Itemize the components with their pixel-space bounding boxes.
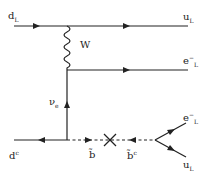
arrow-left-icon [38, 137, 45, 143]
arrow-up-icon [64, 101, 70, 108]
label-u-l-top: uL [183, 12, 193, 24]
label-d-l: dL [8, 11, 18, 23]
arrow-right-icon [85, 137, 92, 143]
arrow-right-icon [123, 67, 130, 73]
arrow-left-icon [129, 137, 136, 143]
label-nu-e: νe [49, 97, 59, 109]
arrow-right-icon [123, 23, 130, 29]
label-u-l-out: uL [183, 160, 193, 172]
label-e-l-mid: e−L [183, 55, 198, 68]
label-b-tilde-c: b̃c [127, 150, 137, 161]
label-w: W [80, 40, 90, 50]
w-boson-propagator [64, 26, 70, 70]
arrow-out-icon [167, 145, 175, 151]
arrow-out-icon [167, 129, 175, 135]
feynman-diagram [0, 0, 204, 178]
label-e-l-out: e−L [183, 112, 198, 125]
arrow-right-icon [33, 23, 40, 29]
label-d-c: dc [9, 150, 19, 161]
label-b-tilde: b̃ [89, 150, 95, 160]
